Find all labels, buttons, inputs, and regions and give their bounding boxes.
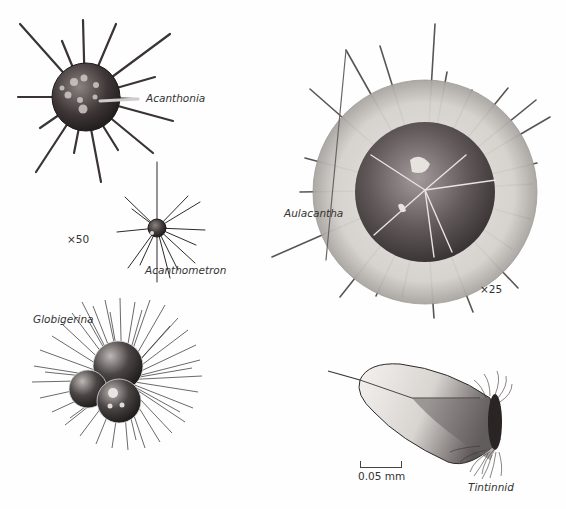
tintinnid-drawing bbox=[328, 364, 512, 479]
illustration-canvas bbox=[0, 0, 566, 509]
aulacantha-drawing bbox=[272, 24, 550, 318]
magnification-left: ×50 bbox=[67, 233, 89, 245]
label-globigerina: Globigerina bbox=[33, 313, 94, 325]
scale-bar-label: 0.05 mm bbox=[358, 470, 405, 482]
label-aulacantha: Aulacantha bbox=[284, 207, 343, 219]
label-acanthometron: Acanthometron bbox=[145, 264, 226, 276]
plankton-illustration-plate: Acanthonia Acanthometron Aulacantha Glob… bbox=[0, 0, 566, 509]
label-tintinnid: Tintinnid bbox=[468, 481, 514, 493]
scale-bar bbox=[360, 461, 402, 468]
label-acanthonia: Acanthonia bbox=[146, 92, 205, 104]
magnification-right: ×25 bbox=[480, 283, 502, 295]
